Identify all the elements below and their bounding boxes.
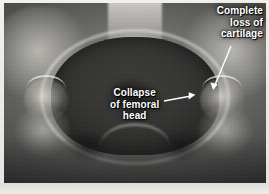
annotation-complete-loss-of-cartilage: Complete loss of cartilage	[217, 5, 263, 40]
page-bottom-band	[0, 183, 269, 194]
annotation-collapse-of-femoral-head: Collapse of femoral head	[110, 87, 159, 122]
figure-page: Complete loss of cartilage Collapse of f…	[0, 0, 269, 194]
